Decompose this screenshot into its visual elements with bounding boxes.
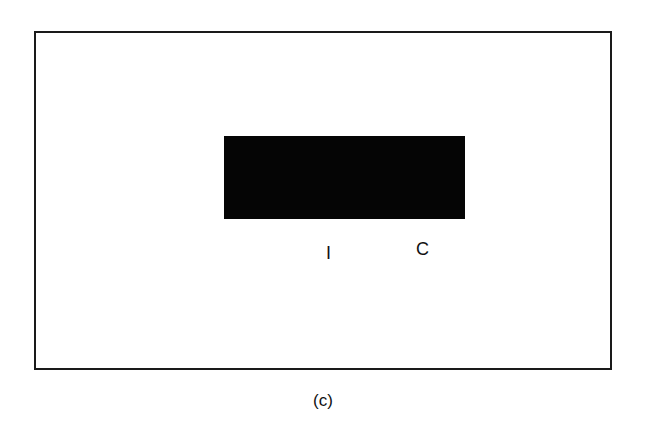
black-rectangle: [224, 136, 465, 219]
figure-caption: (c): [0, 391, 646, 411]
label-c: C: [416, 240, 429, 258]
label-i: I: [326, 244, 331, 262]
